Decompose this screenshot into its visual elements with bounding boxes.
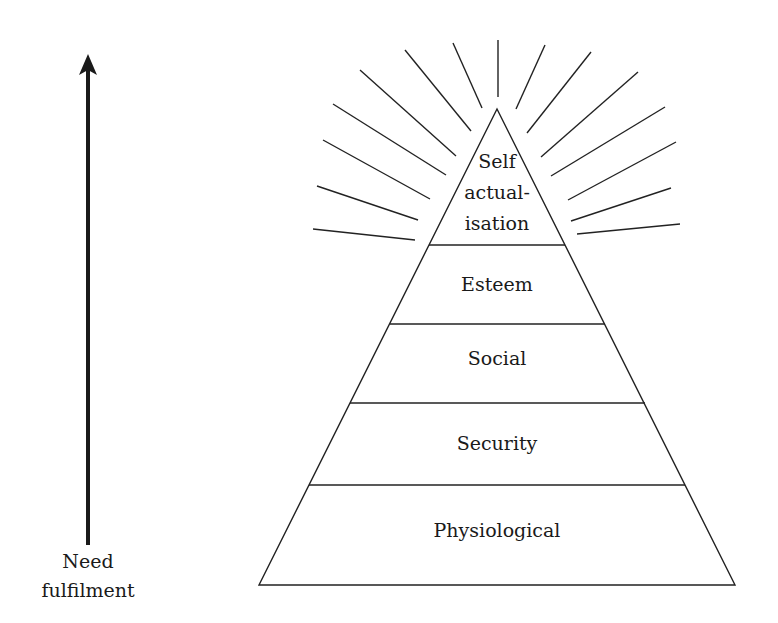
need-fulfilment-arrow xyxy=(79,54,97,545)
svg-text:Self: Self xyxy=(478,150,517,172)
level-security: Security xyxy=(457,432,538,454)
hierarchy-diagram: Need fulfilment Self actual- isation Est… xyxy=(0,0,778,623)
axis-label-line2: fulfilment xyxy=(41,579,135,601)
level-social: Social xyxy=(468,347,527,369)
level-physiological: Physiological xyxy=(434,519,561,541)
svg-text:actual-: actual- xyxy=(464,181,530,203)
radiance-rays xyxy=(313,40,680,240)
axis-label-line1: Need xyxy=(62,550,113,572)
level-esteem: Esteem xyxy=(461,273,533,295)
level-self-actualisation: Self actual- isation xyxy=(464,150,530,234)
svg-text:isation: isation xyxy=(465,212,530,234)
